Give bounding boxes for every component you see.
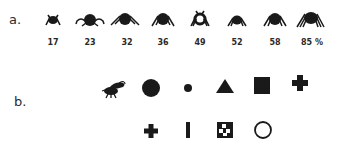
percentage-label: 17 [47, 38, 58, 47]
fly-icon [101, 79, 127, 99]
large-filled-circle-icon [141, 78, 161, 98]
spider-medium-icon [261, 10, 289, 28]
vertical-bar-icon [185, 121, 191, 139]
small-plus-icon [143, 123, 159, 139]
percentage-label: 23 [84, 38, 95, 47]
percentage-label: 32 [121, 38, 132, 47]
spider-long-legs-icon [148, 10, 178, 28]
spider-small-icon [43, 13, 63, 27]
panel-a-label: a. [9, 12, 21, 27]
spider-long-legs-icon [108, 10, 142, 28]
spider-small-icon [225, 12, 249, 28]
spider-ring-body-icon [187, 9, 213, 29]
spider-many-legs-icon [294, 9, 326, 29]
filled-triangle-icon [215, 78, 235, 94]
checkered-square-icon [216, 121, 234, 139]
small-dot-icon [183, 83, 193, 93]
percentage-label: 52 [231, 38, 242, 47]
percentage-label: 85 % [301, 38, 323, 47]
panel-b-label: b. [14, 94, 26, 109]
filled-square-icon [253, 76, 271, 94]
percentage-label: 36 [157, 38, 168, 47]
percentage-label: 49 [194, 38, 205, 47]
spider-wide-legs-icon [74, 12, 106, 28]
percentage-label: 58 [269, 38, 280, 47]
plus-cross-icon [291, 74, 309, 92]
open-circle-icon [253, 120, 273, 140]
